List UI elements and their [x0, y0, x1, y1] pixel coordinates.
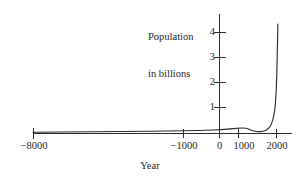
x-axis-label: Year [118, 160, 182, 172]
chart-title-line-1: Population [148, 31, 194, 43]
chart-title-line-2: in billions [148, 68, 194, 80]
x-tick-label-2000: 2000 [263, 140, 291, 151]
x-tick-label-0: 0 [211, 140, 228, 151]
chart-title: Population in billions [148, 6, 194, 105]
y-tick-label-2: 2 [201, 76, 215, 87]
x-tick-label-1000: 1000 [230, 140, 258, 151]
x-tick-label--1000: −1000 [161, 140, 207, 151]
y-tick-label-3: 3 [201, 51, 215, 62]
population-chart-figure: Population in billions 1 2 3 4 −8000 −10… [0, 0, 303, 185]
x-tick-label--8000: −8000 [11, 140, 57, 151]
y-tick-label-1: 1 [201, 101, 215, 112]
y-tick-label-4: 4 [201, 26, 215, 37]
